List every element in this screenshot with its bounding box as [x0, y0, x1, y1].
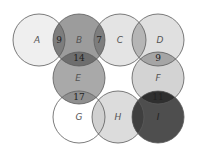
label-f: F	[155, 73, 161, 83]
value-be: 14	[73, 53, 85, 63]
venn-diagram: A B C D E F G H I 9 7 14 9 17 11	[0, 0, 198, 151]
value-fi: 11	[152, 92, 163, 102]
value-ab: 9	[56, 35, 62, 45]
label-c: C	[117, 35, 124, 45]
value-bc: 7	[96, 35, 102, 45]
label-h: H	[115, 112, 122, 122]
label-i: I	[157, 112, 160, 122]
label-a: A	[33, 35, 40, 45]
label-b: B	[76, 35, 82, 45]
value-eg: 17	[73, 92, 85, 102]
label-g: G	[76, 112, 83, 122]
label-d: D	[157, 35, 164, 45]
value-df: 9	[155, 53, 161, 63]
label-e: E	[75, 73, 81, 83]
